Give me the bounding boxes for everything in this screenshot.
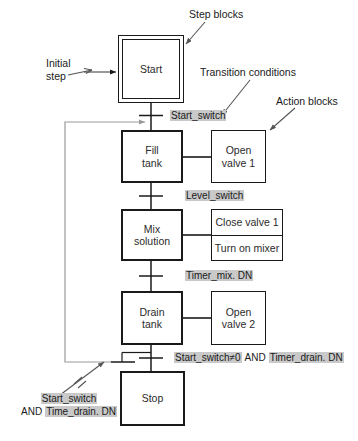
transition-label-drain-exit: Start_switch≠0ANDTimer_drain. DN (174, 352, 344, 364)
step-block-start-label: Start (140, 63, 162, 76)
transition-label-drain-exit-part1: Start_switch≠0 (174, 352, 242, 363)
step-block-fill-tank[interactable]: Fill tank (121, 130, 183, 183)
step-block-mix-solution[interactable]: Mix solution (121, 209, 183, 261)
step-block-fill-tank-text: Fill tank (142, 144, 162, 169)
step-block-drain-tank-line1: Drain (139, 306, 164, 319)
action-row-turn-on-mixer: Turn on mixer (212, 235, 282, 261)
transition-label-start-switch: Start_switch (170, 110, 226, 122)
step-block-start-inner: Start (122, 39, 180, 99)
step-block-mix-solution-line1: Mix (134, 223, 170, 236)
leader-action-blocks (270, 108, 295, 130)
transition-label-level-switch-text: Level_switch (185, 190, 244, 201)
action-open-valve-1-line1: Open (222, 144, 255, 157)
transition-label-drain-exit-conj: AND (242, 352, 269, 363)
action-open-valve-2-line1: Open (222, 306, 255, 319)
action-row-close-valve-1: Close valve 1 (212, 210, 282, 235)
transition-label-drain-exit-part2: Timer_drain. DN (269, 352, 344, 363)
leader-bottom-condition (60, 362, 104, 395)
transition-label-loop-back: Start_switch ANDTime_drain. DN (8, 392, 130, 418)
sfc-diagram-canvas: Start Fill tank Mix solution Drain tank … (0, 0, 358, 441)
transition-label-timer-mix-dn: Timer_mix. DN (185, 270, 253, 282)
transition-label-loop-back-part2: Time_drain. DN (45, 406, 117, 417)
step-block-drain-tank[interactable]: Drain tank (121, 291, 183, 345)
annotation-initial-step: Initial step (46, 57, 86, 83)
step-block-drain-tank-text: Drain tank (139, 306, 164, 331)
transition-label-start-switch-text: Start_switch (170, 110, 226, 121)
action-block-mix-actions[interactable]: Close valve 1 Turn on mixer (211, 209, 283, 261)
action-block-open-valve-2[interactable]: Open valve 2 (211, 291, 266, 345)
step-block-mix-solution-line2: solution (134, 235, 170, 248)
transition-label-loop-back-row2: ANDTime_drain. DN (8, 405, 130, 418)
annotation-action-blocks: Action blocks (276, 95, 338, 108)
step-block-stop-label: Stop (142, 392, 164, 405)
step-block-mix-solution-text: Mix solution (134, 223, 170, 248)
action-open-valve-2-line2: valve 2 (222, 318, 255, 331)
step-block-fill-tank-line2: tank (142, 157, 162, 170)
transition-label-loop-back-part1: Start_switch (41, 393, 97, 404)
action-row-open-valve-2: Open valve 2 (212, 292, 265, 344)
leader-step-blocks (186, 22, 205, 44)
transition-label-timer-mix-dn-text: Timer_mix. DN (185, 270, 253, 281)
annotation-initial-step-line2: step (46, 70, 86, 83)
action-row-open-valve-1: Open valve 1 (212, 131, 265, 182)
transition-label-loop-back-row1: Start_switch (8, 392, 130, 405)
action-link-connectors (183, 157, 211, 318)
action-block-open-valve-1[interactable]: Open valve 1 (211, 130, 266, 183)
step-block-drain-tank-line2: tank (139, 318, 164, 331)
transition-label-loop-back-conj: AND (21, 406, 45, 417)
annotation-transition-conditions: Transition conditions (200, 66, 296, 79)
step-block-start[interactable]: Start (118, 35, 184, 103)
annotation-step-blocks: Step blocks (189, 8, 243, 21)
leader-bottom-condition-hatch (74, 377, 86, 388)
transition-label-level-switch: Level_switch (185, 190, 244, 202)
annotation-initial-step-line1: Initial (46, 57, 86, 70)
action-open-valve-1-line2: valve 1 (222, 157, 255, 170)
step-block-fill-tank-line1: Fill (142, 144, 162, 157)
